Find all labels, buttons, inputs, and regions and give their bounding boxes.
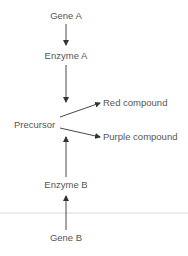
node-red-compound: Red compound	[103, 97, 167, 108]
node-gene-a: Gene A	[50, 10, 82, 21]
node-precursor: Precursor	[14, 119, 55, 130]
node-purple-compound: Purple compound	[103, 131, 177, 142]
node-enzyme-b: Enzyme B	[44, 179, 87, 190]
node-enzyme-a: Enzyme A	[45, 50, 88, 61]
arrow-precursor-to-purple-compound	[60, 128, 100, 137]
arrow-precursor-to-red-compound	[60, 103, 100, 117]
pathway-diagram: Gene A Enzyme A Precursor Red compound P…	[0, 0, 188, 256]
node-gene-b: Gene B	[50, 232, 82, 243]
